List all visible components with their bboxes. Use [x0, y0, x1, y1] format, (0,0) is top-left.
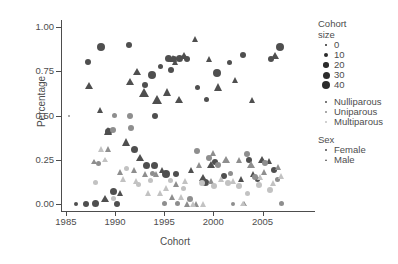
- size-legend-title-line2: size: [318, 29, 398, 40]
- data-point: [122, 138, 130, 146]
- data-points-layer: [62, 20, 288, 211]
- data-point: [267, 187, 273, 193]
- data-point: [168, 178, 173, 183]
- data-point: [139, 88, 149, 97]
- data-point: [98, 146, 104, 152]
- data-point: [236, 157, 242, 163]
- data-point: [163, 88, 171, 96]
- y-tick: [56, 27, 61, 28]
- legend-key-icon: [318, 121, 334, 124]
- legend-key-icon: [318, 53, 334, 57]
- legend-label: 40: [334, 80, 345, 90]
- data-point: [214, 83, 222, 91]
- data-point: [110, 127, 116, 133]
- data-point: [83, 201, 89, 207]
- data-point: [211, 183, 217, 189]
- y-tick: [56, 204, 61, 205]
- data-point: [173, 171, 179, 177]
- y-tick-label: 1.00: [18, 21, 54, 32]
- y-tick: [56, 160, 61, 161]
- data-point: [112, 113, 117, 118]
- data-point: [222, 156, 230, 163]
- data-point: [199, 180, 205, 186]
- size-legend-item[interactable]: 40: [318, 80, 398, 90]
- size-legend-item[interactable]: 20: [318, 60, 398, 70]
- data-point: [105, 146, 111, 152]
- size-legend-item[interactable]: 30: [318, 70, 398, 80]
- data-point: [245, 191, 250, 196]
- x-tick-label: 1995: [144, 216, 184, 227]
- size-legend-item[interactable]: 10: [318, 50, 398, 60]
- chart-root: 0.000.250.500.751.00 1985199019952000200…: [0, 0, 398, 264]
- sex-legend-item[interactable]: Female: [318, 145, 398, 155]
- data-point: [158, 64, 163, 69]
- size-legend-title-line1: Cohort: [318, 18, 398, 29]
- data-point: [227, 60, 232, 65]
- data-point: [133, 68, 141, 75]
- data-point: [215, 162, 221, 168]
- data-point: [213, 69, 221, 77]
- size-legend-item[interactable]: 0: [318, 40, 398, 50]
- y-axis-label: Percentage: [36, 47, 47, 157]
- legend: Cohort size 010203040 NulliparousUniparo…: [318, 18, 398, 165]
- data-point: [148, 178, 153, 183]
- data-point: [142, 171, 148, 177]
- data-point: [195, 85, 200, 90]
- data-point: [230, 178, 236, 184]
- data-point: [127, 113, 133, 119]
- data-point: [231, 202, 235, 206]
- sex-legend-item[interactable]: Male: [318, 155, 398, 165]
- data-point: [247, 161, 255, 168]
- data-point: [188, 167, 194, 173]
- data-point: [145, 190, 151, 196]
- data-point: [152, 95, 162, 104]
- data-point: [111, 196, 116, 201]
- data-point: [190, 201, 196, 207]
- data-point: [153, 171, 159, 177]
- data-point: [101, 195, 109, 202]
- data-point: [151, 162, 158, 169]
- data-point: [159, 167, 165, 173]
- data-point: [228, 171, 233, 176]
- data-point: [148, 71, 156, 79]
- data-point: [110, 188, 117, 195]
- data-point: [131, 167, 137, 173]
- size-legend-items: 010203040: [318, 40, 398, 90]
- data-point: [92, 200, 99, 207]
- plot-panel: [62, 20, 288, 211]
- parity-legend-item[interactable]: Multiparous: [318, 117, 398, 127]
- legend-key-icon: [318, 81, 334, 90]
- data-point: [240, 201, 246, 206]
- x-axis-line: [61, 211, 315, 212]
- legend-key-icon: [318, 111, 334, 114]
- data-point: [175, 201, 180, 206]
- parity-legend-items: NulliparousUniparousMultiparous: [318, 97, 398, 127]
- x-tick-label: 2005: [243, 216, 283, 227]
- data-point: [152, 113, 158, 119]
- data-point: [236, 183, 242, 189]
- data-point: [175, 96, 183, 103]
- data-point: [102, 157, 108, 162]
- data-point: [182, 178, 188, 184]
- data-point: [114, 201, 120, 207]
- legend-key-icon: [318, 62, 334, 68]
- legend-label: Multiparous: [334, 117, 383, 127]
- data-point: [194, 148, 200, 154]
- data-point: [238, 176, 244, 182]
- legend-key-icon: [318, 149, 334, 152]
- data-point: [97, 43, 105, 51]
- data-point: [279, 201, 284, 206]
- data-point: [133, 178, 139, 184]
- data-point: [85, 82, 93, 89]
- data-point: [271, 52, 279, 59]
- x-axis-label: Cohort: [62, 236, 288, 247]
- data-point: [206, 56, 212, 62]
- data-point: [256, 182, 262, 188]
- data-point: [178, 194, 184, 200]
- data-point: [275, 164, 281, 170]
- sex-legend-items: FemaleMale: [318, 145, 398, 165]
- legend-key-icon: [318, 101, 334, 104]
- data-point: [128, 125, 134, 131]
- data-point: [124, 166, 129, 171]
- data-point: [257, 174, 263, 180]
